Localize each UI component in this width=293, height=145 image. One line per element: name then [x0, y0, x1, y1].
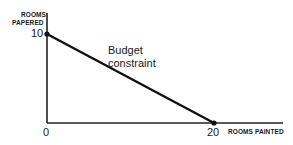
intercept-dot-y: [44, 31, 49, 36]
x-tick-0: 0: [43, 126, 49, 138]
x-axis-label: ROOMS PAINTED: [228, 128, 284, 135]
intercept-dot-x: [211, 120, 216, 125]
budget-constraint-annotation-line2: constraint: [108, 57, 156, 70]
y-axis-label-line2: PAPERED: [12, 19, 44, 26]
budget-constraint-annotation-line1: Budget: [108, 44, 143, 57]
x-tick-20: 20: [207, 126, 219, 138]
y-axis-label-line1: ROOMS: [21, 11, 46, 18]
y-tick-10: 10: [31, 27, 43, 39]
